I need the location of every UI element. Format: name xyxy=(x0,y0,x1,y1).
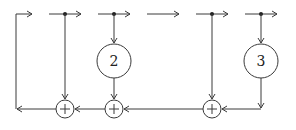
adder-1 xyxy=(56,100,74,118)
gain-node-3: 3 xyxy=(244,44,278,78)
gain-node-2: 2 xyxy=(97,44,131,78)
adder-2 xyxy=(105,100,123,118)
gain-label-3: 3 xyxy=(257,53,266,69)
adder-3 xyxy=(203,100,221,118)
signal-flow-diagram: 2 3 xyxy=(0,0,296,130)
gain-label-2: 2 xyxy=(110,53,119,69)
